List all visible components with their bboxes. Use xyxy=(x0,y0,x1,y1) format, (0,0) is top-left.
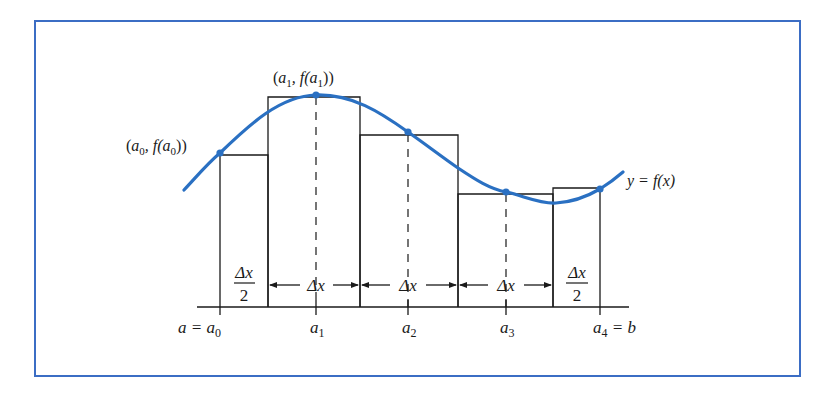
point-a4 xyxy=(596,185,603,192)
svg-text:Δx: Δx xyxy=(234,263,253,282)
function-curve xyxy=(184,95,623,203)
point-a3 xyxy=(502,188,509,195)
figure-frame xyxy=(35,21,800,376)
svg-text:2: 2 xyxy=(573,286,582,305)
point-a1 xyxy=(312,91,319,98)
point-a0 xyxy=(216,149,223,156)
axis-label-a1: a1 xyxy=(310,318,325,340)
half-width-fraction-right: Δx 2 xyxy=(566,263,588,305)
label-curve: y = f(x) xyxy=(625,172,675,190)
svg-text:Δx: Δx xyxy=(567,263,586,282)
svg-text:2: 2 xyxy=(240,286,249,305)
axis-label-a2: a2 xyxy=(402,318,417,340)
delta-x-label-1: Δx xyxy=(306,276,325,295)
delta-x-label-2: Δx xyxy=(398,276,417,295)
axis-label-a4: a4 = b xyxy=(593,318,636,340)
axis-label-a0: a = a0 xyxy=(178,318,221,340)
half-width-fraction-left: Δx 2 xyxy=(234,263,255,305)
delta-x-label-3: Δx xyxy=(496,276,515,295)
label-point-a0: (a0, f(a0)) xyxy=(126,137,187,157)
riemann-sum-diagram: Δx Δx Δx Δx 2 Δx 2 (a0, f(a0)) (a1, f(a1… xyxy=(0,0,831,396)
axis-label-a3: a3 xyxy=(500,318,515,340)
label-point-a1: (a1, f(a1)) xyxy=(273,69,334,89)
point-a2 xyxy=(404,128,411,135)
rectangle-0 xyxy=(220,155,268,307)
